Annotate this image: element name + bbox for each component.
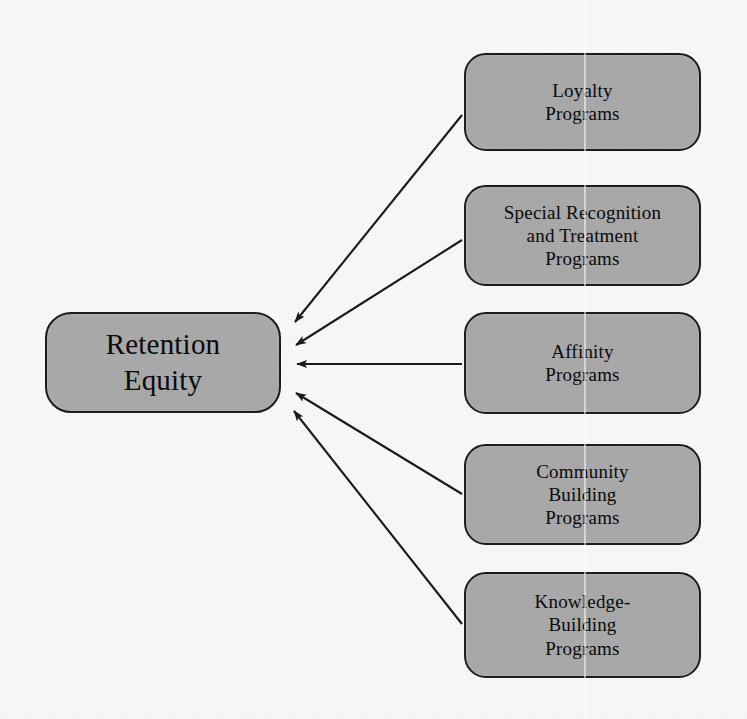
node-community-building-programs-line-1: Community — [536, 461, 629, 482]
node-knowledge-building-programs-label: Knowledge- Building Programs — [525, 590, 641, 660]
node-community-building-programs[interactable]: Community Building Programs — [464, 444, 701, 545]
node-knowledge-building-programs-line-2: Building — [548, 614, 616, 635]
node-special-recognition-programs-line-2: and Treatment — [527, 225, 639, 246]
node-affinity-programs-line-1: Affinity — [551, 341, 613, 362]
node-loyalty-programs-line-1: Loyalty — [552, 80, 613, 101]
edge-loyalty-to-retention — [295, 115, 462, 322]
node-community-building-programs-line-3: Programs — [545, 507, 619, 528]
node-loyalty-programs[interactable]: Loyalty Programs — [464, 53, 701, 151]
edge-special-recognition-to-retention — [296, 240, 462, 345]
node-retention-equity[interactable]: Retention Equity — [45, 312, 281, 413]
node-special-recognition-programs-label: Special Recognition and Treatment Progra… — [494, 201, 671, 271]
node-retention-equity-line-2: Equity — [124, 364, 203, 396]
node-special-recognition-programs-line-3: Programs — [545, 248, 619, 269]
node-affinity-programs-line-2: Programs — [545, 364, 619, 385]
node-retention-equity-label: Retention Equity — [96, 327, 231, 398]
diagram-canvas: Retention Equity Loyalty Programs Specia… — [0, 0, 747, 719]
node-knowledge-building-programs[interactable]: Knowledge- Building Programs — [464, 572, 701, 678]
node-affinity-programs-label: Affinity Programs — [535, 340, 629, 386]
node-knowledge-building-programs-line-1: Knowledge- — [535, 591, 631, 612]
node-community-building-programs-line-2: Building — [548, 484, 616, 505]
node-community-building-programs-label: Community Building Programs — [526, 460, 639, 530]
node-knowledge-building-programs-line-3: Programs — [545, 638, 619, 659]
node-retention-equity-line-1: Retention — [106, 328, 221, 360]
node-loyalty-programs-line-2: Programs — [545, 103, 619, 124]
node-special-recognition-programs[interactable]: Special Recognition and Treatment Progra… — [464, 185, 701, 286]
node-special-recognition-programs-line-1: Special Recognition — [504, 202, 661, 223]
node-loyalty-programs-label: Loyalty Programs — [535, 79, 629, 125]
node-affinity-programs[interactable]: Affinity Programs — [464, 312, 701, 414]
